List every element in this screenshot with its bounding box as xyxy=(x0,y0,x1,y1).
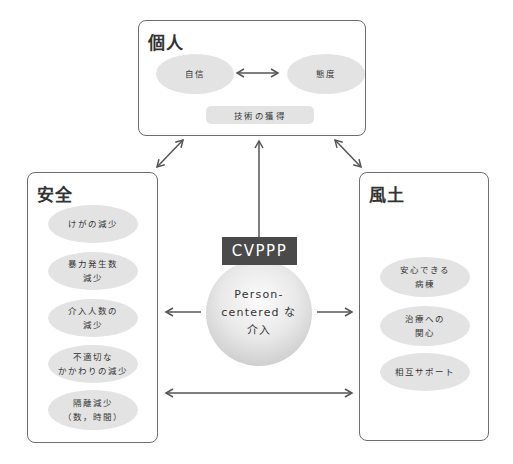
person-centered-sphere: Person- centered な 介入 xyxy=(206,260,312,366)
connector-arrows xyxy=(0,0,513,464)
individual-safety-arrow xyxy=(157,140,183,167)
cvppp-label: CVPPP xyxy=(222,237,297,265)
individual-climate-arrow xyxy=(335,140,361,167)
